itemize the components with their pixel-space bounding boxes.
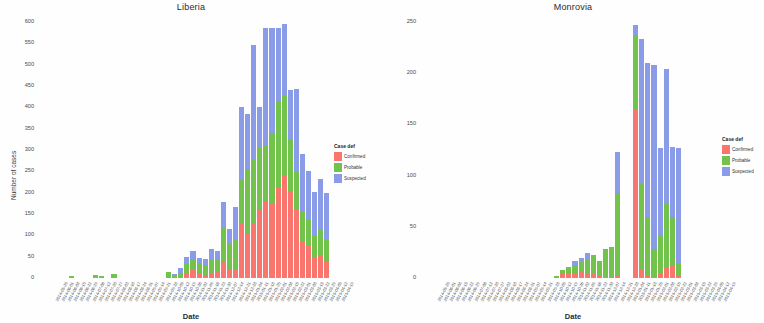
legend-item-suspected[interactable]: Suspected xyxy=(334,173,366,184)
bar-segment-probable xyxy=(251,159,256,223)
bar[interactable] xyxy=(706,22,712,278)
legend-item-confirmed[interactable]: Confirmed xyxy=(722,144,754,155)
legend-swatch-suspected xyxy=(722,167,730,176)
y-tick-label: 400 xyxy=(6,104,34,110)
legend-label-confirmed: Confirmed xyxy=(732,147,753,152)
bar-series-container xyxy=(420,22,712,278)
legend-item-suspected[interactable]: Suspected xyxy=(722,166,754,177)
y-tick-label: 550 xyxy=(6,40,34,46)
bar-segment-probable xyxy=(645,217,650,276)
y-tick-label: 0 xyxy=(6,275,34,281)
bar-segment-suspected xyxy=(245,114,250,169)
bar-segment-confirmed xyxy=(633,109,638,278)
y-tick-label: 100 xyxy=(388,173,416,179)
bar-segment-probable xyxy=(676,263,681,275)
legend-swatch-confirmed xyxy=(334,152,342,161)
legend-item-confirmed[interactable]: Confirmed xyxy=(334,151,366,162)
panel-liberia: Liberia Number of cases 0501001502002503… xyxy=(0,0,382,323)
bar-segment-probable xyxy=(633,35,638,109)
plot-area-liberia: 0501001502002503003504004505005506002014… xyxy=(0,0,382,323)
bar-segment-confirmed xyxy=(324,261,329,278)
bar[interactable] xyxy=(324,22,330,278)
figure-root: Liberia Number of cases 0501001502002503… xyxy=(0,0,764,323)
bar-segment-suspected xyxy=(276,28,281,101)
bar-segment-probable xyxy=(178,273,183,278)
bar-segment-probable xyxy=(639,183,644,270)
legend-title: Case def xyxy=(722,136,754,142)
bar-segment-probable xyxy=(233,239,238,270)
legend-label-confirmed: Confirmed xyxy=(344,154,365,159)
bar-segment-confirmed xyxy=(572,273,577,278)
bar-segment-suspected xyxy=(300,154,305,212)
bar-segment-probable xyxy=(215,259,220,272)
bar-segment-confirmed xyxy=(645,276,650,278)
bar-segment-confirmed xyxy=(276,188,281,278)
bar-segment-confirmed xyxy=(288,191,293,278)
bar-segment-confirmed xyxy=(300,242,305,278)
panel-monrovia: Monrovia Number of cases 050100150200250… xyxy=(382,0,764,323)
bar-segment-probable xyxy=(609,247,614,278)
bar-segment-probable xyxy=(306,220,311,246)
bar-segment-probable xyxy=(227,244,232,269)
bar-segment-suspected xyxy=(645,63,650,217)
bar-segment-probable xyxy=(664,204,669,267)
bar-segment-suspected xyxy=(227,229,232,244)
bar-segment-probable xyxy=(651,249,656,278)
bar-segment-suspected xyxy=(215,251,220,260)
bar-segment-suspected xyxy=(257,107,262,148)
bar-segment-confirmed xyxy=(312,257,317,278)
bar-segment-suspected xyxy=(324,193,329,240)
bar-segment-suspected xyxy=(209,249,214,260)
bar-segment-confirmed xyxy=(294,210,299,278)
legend-label-suspected: Suspected xyxy=(732,169,754,174)
y-tick-label: 500 xyxy=(6,62,34,68)
bar-segment-confirmed xyxy=(269,203,274,278)
bar-segment-suspected xyxy=(633,25,638,35)
bar-segment-probable xyxy=(209,260,214,274)
bar-segment-suspected xyxy=(664,69,669,204)
bar-segment-probable xyxy=(184,264,189,273)
y-tick-label: 250 xyxy=(388,19,416,25)
bar-segment-probable xyxy=(69,276,74,278)
bar-segment-confirmed xyxy=(111,277,116,278)
legend-item-probable[interactable]: Probable xyxy=(722,155,754,166)
bar-segment-confirmed xyxy=(670,266,675,278)
bar-segment-probable xyxy=(591,255,596,273)
bar-segment-confirmed xyxy=(190,270,195,278)
bar-segment-confirmed xyxy=(566,273,571,278)
y-tick-label: 200 xyxy=(388,70,416,76)
bar-segment-suspected xyxy=(269,28,274,133)
y-tick-label: 150 xyxy=(6,211,34,217)
bar-segment-confirmed xyxy=(233,269,238,278)
bar-segment-confirmed xyxy=(197,273,202,278)
bar-segment-probable xyxy=(257,148,262,210)
bar-segment-suspected xyxy=(306,171,311,220)
bar-segment-suspected xyxy=(294,89,299,172)
bar-segment-probable xyxy=(615,193,620,275)
bar-segment-probable xyxy=(93,275,98,278)
legend-liberia: Case def Confirmed Probable Suspected xyxy=(334,143,366,184)
bar-segment-probable xyxy=(245,169,250,233)
legend-swatch-suspected xyxy=(334,174,342,183)
bar-segment-suspected xyxy=(282,24,287,94)
bar-segment-probable xyxy=(324,240,329,261)
legend-label-probable: Probable xyxy=(732,158,750,163)
bar-segment-confirmed xyxy=(184,273,189,278)
y-tick-label: 250 xyxy=(6,168,34,174)
bar-segment-confirmed xyxy=(306,246,311,278)
legend-item-probable[interactable]: Probable xyxy=(334,162,366,173)
bar-segment-confirmed xyxy=(282,176,287,278)
bar-segment-suspected xyxy=(288,90,293,140)
bar-segment-probable xyxy=(579,262,584,272)
bar-segment-probable xyxy=(312,235,317,257)
bar-segment-probable xyxy=(203,265,208,274)
y-tick-label: 350 xyxy=(6,126,34,132)
bar-segment-confirmed xyxy=(221,261,226,278)
x-axis-label-liberia: Date xyxy=(0,312,382,321)
legend-swatch-probable xyxy=(334,163,342,172)
bar-segment-suspected xyxy=(190,251,195,260)
bar-segment-confirmed xyxy=(209,274,214,278)
bar-segment-confirmed xyxy=(245,233,250,278)
legend-title: Case def xyxy=(334,143,366,149)
y-tick-label: 50 xyxy=(6,254,34,260)
